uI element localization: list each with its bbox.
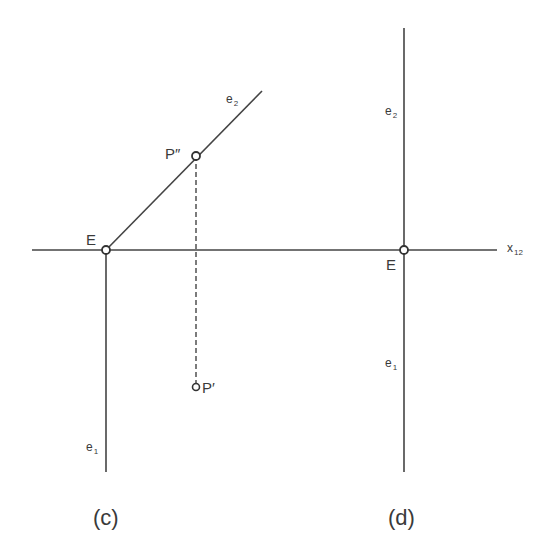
panel-c-label-E: E (86, 232, 96, 247)
panel-c-point-P-double-prime (192, 152, 200, 160)
panel-c-point-P-prime (193, 384, 200, 391)
panel-d-label-e1: e1 (385, 357, 397, 369)
panel-d-label-E: E (386, 257, 396, 272)
panel-c-label-P-double-prime: P″ (165, 146, 180, 161)
diagram-lines (0, 0, 556, 552)
projection-diagram: E P″ P′ e2 e1 (c) E e2 e1 x12 (d) (0, 0, 556, 552)
panel-c-e2-trace (106, 91, 262, 250)
panel-c-point-E (102, 246, 110, 254)
panel-c-label-e2: e2 (226, 93, 238, 105)
panel-c-label-P-prime: P′ (202, 380, 215, 395)
panel-c-caption: (c) (93, 507, 119, 529)
panel-d-caption: (d) (388, 507, 415, 529)
panel-d-label-e2: e2 (385, 105, 397, 117)
panel-d-label-x12: x12 (507, 242, 523, 254)
panel-d-point-E (400, 246, 408, 254)
panel-c-label-e1: e1 (86, 441, 98, 453)
